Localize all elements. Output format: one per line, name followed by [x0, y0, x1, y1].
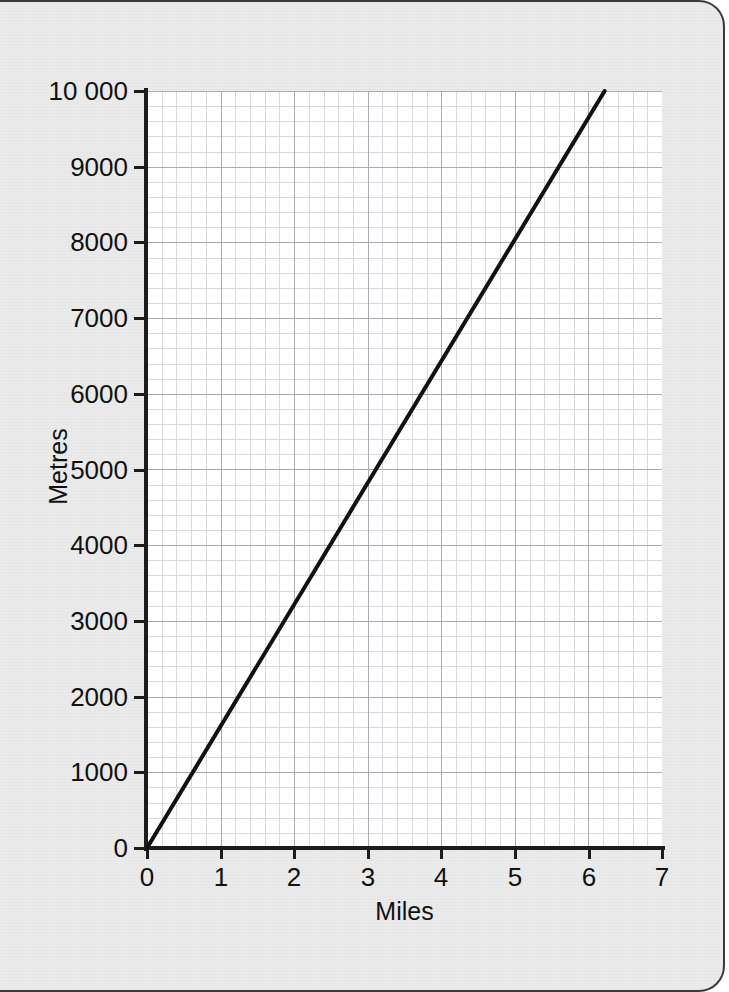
y-axis-label-3000: 3000 [70, 606, 128, 637]
y-axis-title: Metres [44, 407, 73, 527]
x-tick-6 [588, 848, 591, 859]
x-axis-label-2: 2 [264, 862, 324, 893]
x-axis-label-3: 3 [338, 862, 398, 893]
y-tick-8000 [134, 241, 145, 244]
y-axis-label-8000: 8000 [70, 227, 128, 258]
x-axis-title: Miles [147, 897, 662, 926]
y-tick-9000 [134, 166, 145, 169]
y-tick-4000 [134, 544, 145, 547]
x-axis-label-0: 0 [117, 862, 177, 893]
plot-area [147, 91, 662, 848]
x-tick-7 [661, 848, 664, 859]
y-axis-label-5000: 5000 [70, 455, 128, 486]
y-axis-label-9000: 9000 [70, 152, 128, 183]
x-tick-0 [146, 848, 149, 859]
conversion-graph-figure: 10 000 9000 8000 7000 6000 5000 4000 300… [0, 0, 729, 992]
y-tick-7000 [134, 317, 145, 320]
x-axis-label-1: 1 [191, 862, 251, 893]
y-tick-1000 [134, 771, 145, 774]
y-axis-label-4000: 4000 [70, 530, 128, 561]
grid-major [147, 91, 662, 848]
x-axis-label-6: 6 [559, 862, 619, 893]
y-tick-3000 [134, 620, 145, 623]
y-axis-label-1000: 1000 [70, 757, 128, 788]
y-tick-5000 [134, 469, 145, 472]
y-axis-label-6000: 6000 [70, 379, 128, 410]
y-tick-6000 [134, 393, 145, 396]
y-axis-label-2000: 2000 [70, 682, 128, 713]
y-tick-0 [134, 847, 145, 850]
y-tick-10000 [134, 90, 145, 93]
x-axis-label-4: 4 [411, 862, 471, 893]
y-tick-2000 [134, 696, 145, 699]
y-axis-label-0: 0 [114, 833, 128, 864]
y-axis-label-7000: 7000 [70, 303, 128, 334]
x-tick-3 [367, 848, 370, 859]
x-tick-5 [514, 848, 517, 859]
x-axis-label-7: 7 [632, 862, 692, 893]
x-tick-2 [293, 848, 296, 859]
x-axis-label-5: 5 [485, 862, 545, 893]
x-tick-1 [220, 848, 223, 859]
x-tick-4 [440, 848, 443, 859]
y-axis-label-10000: 10 000 [48, 76, 128, 107]
